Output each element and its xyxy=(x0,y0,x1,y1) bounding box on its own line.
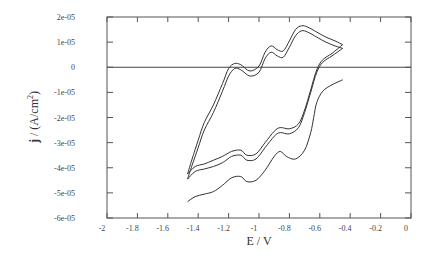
x-axis-ticks: -2-1.8-1.6-1.4-1.2-1-0.8-0.6-0.4-0.20 xyxy=(99,17,411,233)
x-tick-label: -0.6 xyxy=(308,224,321,233)
y-tick-label: 2e-05 xyxy=(57,13,75,22)
data-series xyxy=(188,26,343,202)
cv-curve-1 xyxy=(188,80,343,202)
y-tick-label: 1e-05 xyxy=(57,38,75,47)
x-tick-label: -1.6 xyxy=(156,224,169,233)
x-tick-label: -1.8 xyxy=(126,224,139,233)
y-tick-label: -5e-05 xyxy=(54,189,75,198)
y-axis-title-close: ) xyxy=(27,91,41,95)
y-tick-label: -2e-05 xyxy=(54,114,75,123)
plot-area-border xyxy=(107,17,411,218)
cyclic-voltammogram-chart: 2e-051e-050-1e-05-2e-05-3e-05-4e-05-5e-0… xyxy=(0,0,435,259)
y-tick-label: -3e-05 xyxy=(54,139,75,148)
y-tick-label: -6e-05 xyxy=(54,214,75,223)
x-tick-label: -1.4 xyxy=(187,224,200,233)
cv-curve-5 xyxy=(188,26,343,174)
x-tick-label: -0.8 xyxy=(278,224,291,233)
x-tick-label: -0.4 xyxy=(339,224,352,233)
y-tick-label: -4e-05 xyxy=(54,164,75,173)
cv-curve-2 xyxy=(188,48,343,179)
y-tick-label: 0 xyxy=(71,63,75,72)
y-axis-title: j / (A/cm2) xyxy=(26,91,41,144)
x-tick-label: -0.2 xyxy=(369,224,382,233)
x-tick-label: -2 xyxy=(99,224,106,233)
plot-frame xyxy=(107,17,411,218)
y-axis-title-units: / (A/cm xyxy=(27,98,41,139)
x-tick-label: -1.2 xyxy=(217,224,230,233)
x-tick-label: 0 xyxy=(404,224,408,233)
x-axis-title: E / V xyxy=(246,234,271,248)
x-tick-label: -1 xyxy=(251,224,258,233)
y-axis-ticks: 2e-051e-050-1e-05-2e-05-3e-05-4e-05-5e-0… xyxy=(54,13,411,223)
y-tick-label: -1e-05 xyxy=(54,88,75,97)
